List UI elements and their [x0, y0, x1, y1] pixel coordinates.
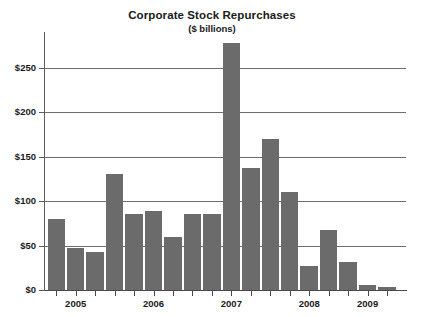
x-axis-tick — [290, 291, 291, 296]
y-axis-label: $150 — [0, 151, 36, 162]
x-axis-tick — [387, 291, 388, 296]
bar — [262, 139, 279, 290]
x-axis-tick — [173, 291, 174, 296]
bar — [242, 168, 259, 290]
x-axis-label: 2007 — [209, 298, 253, 309]
x-axis-label: 2005 — [54, 298, 98, 309]
x-axis-tick — [76, 291, 77, 296]
x-axis-tick — [270, 291, 271, 296]
bar — [164, 237, 181, 290]
bar — [223, 43, 240, 290]
x-axis-tick — [154, 291, 155, 296]
x-axis-tick — [251, 291, 252, 296]
y-axis-label: $250 — [0, 62, 36, 73]
y-axis-label: $0 — [0, 284, 36, 295]
bar — [145, 211, 162, 290]
chart-title-block: Corporate Stock Repurchases ($ billions) — [0, 8, 424, 35]
bar — [67, 248, 84, 290]
bar — [300, 266, 317, 290]
x-axis-tick — [56, 291, 57, 296]
x-axis-label: 2008 — [287, 298, 331, 309]
x-axis-tick — [95, 291, 96, 296]
y-axis-tick — [39, 290, 45, 291]
x-axis-tick — [368, 291, 369, 296]
bar — [86, 252, 103, 290]
bar — [48, 219, 65, 290]
bar — [359, 285, 376, 290]
x-axis-tick — [134, 291, 135, 296]
y-axis-label: $200 — [0, 106, 36, 117]
bar — [125, 214, 142, 291]
bar — [106, 174, 123, 290]
y-axis-label: $50 — [0, 240, 36, 251]
x-axis-tick — [212, 291, 213, 296]
bar-series — [45, 32, 406, 290]
chart-title: Corporate Stock Repurchases — [0, 8, 424, 22]
x-axis-tick — [348, 291, 349, 296]
x-axis-tick — [231, 291, 232, 296]
x-axis-tick — [192, 291, 193, 296]
bar — [339, 262, 356, 290]
chart-container: Corporate Stock Repurchases ($ billions)… — [0, 0, 424, 317]
bar — [203, 214, 220, 291]
bar — [281, 192, 298, 290]
x-axis-label: 2009 — [346, 298, 390, 309]
bar — [320, 230, 337, 290]
y-axis-label: $100 — [0, 195, 36, 206]
x-axis-tick — [309, 291, 310, 296]
x-axis-line — [45, 290, 407, 291]
x-axis-tick — [115, 291, 116, 296]
bar — [378, 287, 395, 290]
bar — [184, 214, 201, 291]
x-axis-label: 2006 — [132, 298, 176, 309]
x-axis-tick — [329, 291, 330, 296]
